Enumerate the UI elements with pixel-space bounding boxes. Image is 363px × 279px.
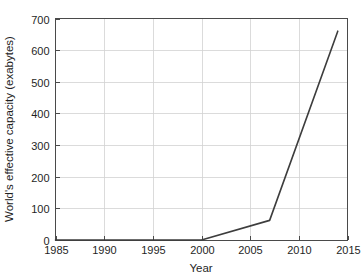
x-tick-label: 2010: [287, 244, 311, 256]
x-axis-title: Year: [189, 262, 212, 274]
chart-figure: 0100200300400500600700 19851990199520002…: [0, 0, 363, 279]
y-tick-label: 600: [31, 45, 49, 57]
x-tick-label: 2005: [238, 244, 262, 256]
y-axis-title: World's effective capacity (exabytes): [3, 36, 15, 222]
x-tick-label: 2015: [336, 244, 360, 256]
x-tick-label: 2000: [190, 244, 214, 256]
y-tick-label: 700: [31, 14, 49, 26]
capacity-line-chart: 0100200300400500600700 19851990199520002…: [0, 0, 363, 279]
y-tick-label: 100: [31, 203, 49, 215]
x-tick-label: 1990: [92, 244, 116, 256]
y-tick-label: 400: [31, 108, 49, 120]
figure-background: [0, 0, 363, 279]
y-tick-label: 300: [31, 140, 49, 152]
x-tick-label: 1985: [44, 244, 68, 256]
y-tick-label: 200: [31, 172, 49, 184]
y-tick-label: 500: [31, 77, 49, 89]
x-tick-label: 1995: [141, 244, 165, 256]
